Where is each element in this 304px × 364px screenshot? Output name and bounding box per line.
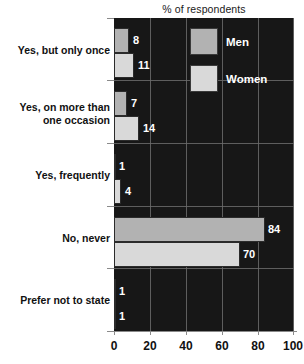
bar-label-men-prefer-not: 1 xyxy=(119,286,125,297)
xtick-label-0: 0 xyxy=(94,339,134,353)
category-label-line-1: Yes, but only once xyxy=(2,44,110,57)
bar-label-women-yes-freq: 4 xyxy=(125,186,131,197)
legend-swatch-men xyxy=(190,28,218,55)
bar-label-women-no-never: 70 xyxy=(243,249,255,260)
gridline-100 xyxy=(293,18,294,331)
category-separator-2 xyxy=(114,143,294,144)
gridline-40 xyxy=(186,18,187,331)
xtick-label-100: 100 xyxy=(273,339,304,353)
legend-label-men: Men xyxy=(226,37,249,49)
bar-women-prefer-not[interactable] xyxy=(114,304,116,329)
bar-men-yes-more[interactable] xyxy=(114,91,127,116)
bar-label-men-yes-more: 7 xyxy=(131,98,137,109)
xtick-100 xyxy=(293,331,294,335)
xtick-label-80: 80 xyxy=(238,339,278,353)
legend-label-women: Women xyxy=(226,74,267,86)
category-label-yes-frequently: Yes, frequently xyxy=(2,169,110,182)
bar-label-men-yes-once: 8 xyxy=(133,35,139,46)
bar-men-yes-freq[interactable] xyxy=(114,154,116,179)
bar-men-prefer-not[interactable] xyxy=(114,279,116,304)
bar-label-women-yes-once: 11 xyxy=(138,60,150,71)
gridline-60 xyxy=(222,18,223,331)
bar-label-women-prefer-not: 1 xyxy=(119,311,125,322)
ytick-2 xyxy=(107,80,114,81)
bar-women-yes-more[interactable] xyxy=(114,116,139,141)
xtick-label-40: 40 xyxy=(166,339,206,353)
legend-swatch-women xyxy=(190,65,218,92)
ytick-3 xyxy=(107,143,114,144)
category-label-line-1: Prefer not to state xyxy=(2,294,110,307)
ytick-4 xyxy=(107,206,114,207)
x-axis-line xyxy=(111,331,297,332)
ytick-5 xyxy=(107,268,114,269)
gridline-80 xyxy=(258,18,259,331)
category-separator-3 xyxy=(114,206,294,207)
xtick-label-60: 60 xyxy=(202,339,242,353)
plot-area: 8 11 7 14 1 4 84 70 1 1 Men Women xyxy=(114,18,294,331)
xtick-label-20: 20 xyxy=(130,339,170,353)
bar-label-men-no-never: 84 xyxy=(268,224,280,235)
category-label-no-never: No, never xyxy=(2,232,110,245)
category-label-prefer-not-to-state: Prefer not to state xyxy=(2,294,110,307)
bar-men-no-never[interactable] xyxy=(114,217,265,242)
bar-women-yes-freq[interactable] xyxy=(114,179,121,204)
bar-women-yes-once[interactable] xyxy=(114,53,134,78)
bar-men-yes-once[interactable] xyxy=(114,28,129,53)
category-label-yes-once: Yes, but only once xyxy=(2,44,110,57)
bar-label-men-yes-freq: 1 xyxy=(119,161,125,172)
xtick-80 xyxy=(258,331,259,335)
xtick-60 xyxy=(222,331,223,335)
xtick-40 xyxy=(186,331,187,335)
category-label-line-1: Yes, on more than xyxy=(2,101,110,114)
chart-title: % of respondents xyxy=(114,3,294,15)
category-label-line-1: No, never xyxy=(2,232,110,245)
ytick-1 xyxy=(107,18,114,19)
gridline-20 xyxy=(150,18,151,331)
xtick-20 xyxy=(150,331,151,335)
bar-chart: % of respondents 8 11 7 14 1 4 84 70 xyxy=(0,0,304,364)
category-separator-4 xyxy=(114,268,294,269)
category-label-yes-more: Yes, on more than one occasion xyxy=(2,101,110,126)
xtick-0 xyxy=(114,331,115,335)
bar-label-women-yes-more: 14 xyxy=(143,123,155,134)
category-label-line-1: Yes, frequently xyxy=(2,169,110,182)
category-label-line-2: one occasion xyxy=(2,114,110,127)
bar-women-no-never[interactable] xyxy=(114,242,240,267)
